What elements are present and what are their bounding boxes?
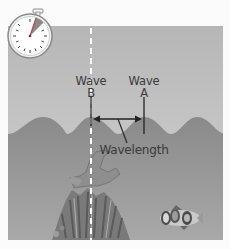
wavelength-diagram: Wave B Wave A Wavelength xyxy=(0,0,230,249)
wave-b-label-letter: B xyxy=(75,87,107,99)
wavelength-label: Wavelength xyxy=(98,144,170,156)
stopwatch-icon xyxy=(8,9,52,58)
wave-b-label: Wave B xyxy=(75,75,107,99)
wave-a-label-letter: A xyxy=(128,87,160,99)
wave-a-label: Wave A xyxy=(128,75,160,99)
